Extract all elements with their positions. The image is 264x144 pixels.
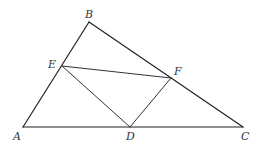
geometry-diagram: B A D C E F <box>0 0 264 144</box>
vertex-label-d: D <box>125 130 135 143</box>
vertex-label-e: E <box>47 58 56 71</box>
vertex-label-b: B <box>84 8 93 21</box>
segment-ab <box>23 22 89 127</box>
segment-ef <box>62 66 171 78</box>
segment-df <box>130 78 171 127</box>
vertex-label-c: C <box>241 130 250 143</box>
vertex-label-f: F <box>173 65 182 78</box>
vertex-label-a: A <box>12 130 21 143</box>
diagram-svg: B A D C E F <box>0 0 264 144</box>
segment-ed <box>62 66 130 127</box>
